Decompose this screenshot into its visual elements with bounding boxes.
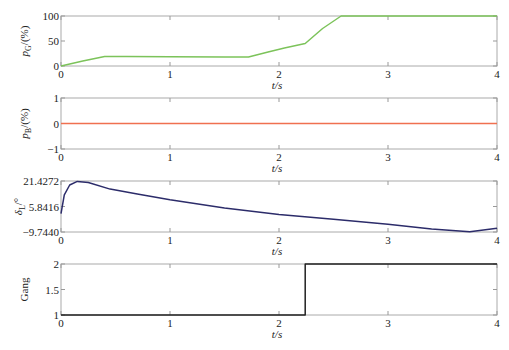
x-tick-label: 3: [385, 317, 391, 329]
y-tick-label: 5.8416: [29, 201, 60, 213]
y-tick-label: 21.4272: [23, 175, 59, 187]
data-series-line: [61, 181, 497, 231]
axes-box: [61, 16, 497, 66]
y-tick-label: 0: [54, 60, 60, 72]
x-tick-label: 1: [167, 234, 173, 246]
x-tick-label: 0: [58, 234, 64, 246]
axes-box: [61, 181, 497, 232]
x-tick-label: 4: [494, 151, 500, 163]
x-tick-label: 0: [58, 317, 64, 329]
y-tick-label: 1: [54, 309, 60, 321]
y-axis-label: pG/(%): [18, 25, 33, 57]
y-axis-label: pB/(%): [18, 108, 33, 140]
x-tick-label: 4: [494, 234, 500, 246]
axes-box: [61, 264, 497, 315]
y-tick-label: 100: [43, 10, 60, 22]
y-tick-label: 0: [54, 118, 60, 130]
x-tick-label: 1: [167, 317, 173, 329]
x-tick-label: 4: [494, 68, 500, 80]
x-tick-label: 3: [385, 234, 391, 246]
y-axis-label: Gang: [18, 277, 30, 301]
figure: 01234050100t/spG/(%)01234−101t/spB/(%)01…: [0, 0, 509, 350]
data-series-line: [61, 264, 497, 315]
x-tick-label: 0: [58, 68, 64, 80]
x-axis-label: t/s: [272, 162, 282, 174]
x-tick-label: 3: [385, 151, 391, 163]
x-tick-label: 3: [385, 68, 391, 80]
y-tick-label: 50: [48, 35, 60, 47]
subplot-2: 01234−101t/spB/(%): [18, 92, 500, 174]
x-axis-label: t/s: [272, 245, 282, 257]
subplot-1: 01234050100t/spG/(%): [18, 10, 500, 91]
x-tick-label: 1: [167, 68, 173, 80]
data-series-line: [61, 16, 497, 66]
y-tick-label: −1: [47, 143, 59, 155]
y-tick-label: −9.7440: [23, 226, 60, 238]
y-tick-label: 1.5: [45, 284, 59, 296]
x-tick-label: 0: [58, 151, 64, 163]
y-tick-label: 1: [54, 92, 60, 104]
x-axis-label: t/s: [272, 79, 282, 91]
subplot-4: 0123411.52t/sGang: [18, 258, 500, 340]
x-axis-label: t/s: [272, 328, 282, 340]
x-tick-label: 4: [494, 317, 500, 329]
x-tick-label: 1: [167, 151, 173, 163]
y-axis-label: δL/°: [12, 198, 27, 215]
y-tick-label: 2: [54, 258, 60, 270]
subplot-3: 01234−9.74405.841621.4272t/sδL/°: [12, 175, 500, 257]
